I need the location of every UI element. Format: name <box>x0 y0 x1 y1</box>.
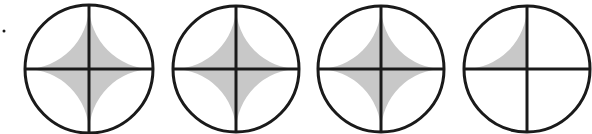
fraction-circle-4 <box>464 6 590 132</box>
fraction-circle-2 <box>173 6 299 132</box>
stray-dot <box>3 30 6 33</box>
fraction-circle-3 <box>318 6 444 132</box>
fraction-diagram <box>0 0 592 134</box>
fraction-circle-1 <box>25 5 153 133</box>
